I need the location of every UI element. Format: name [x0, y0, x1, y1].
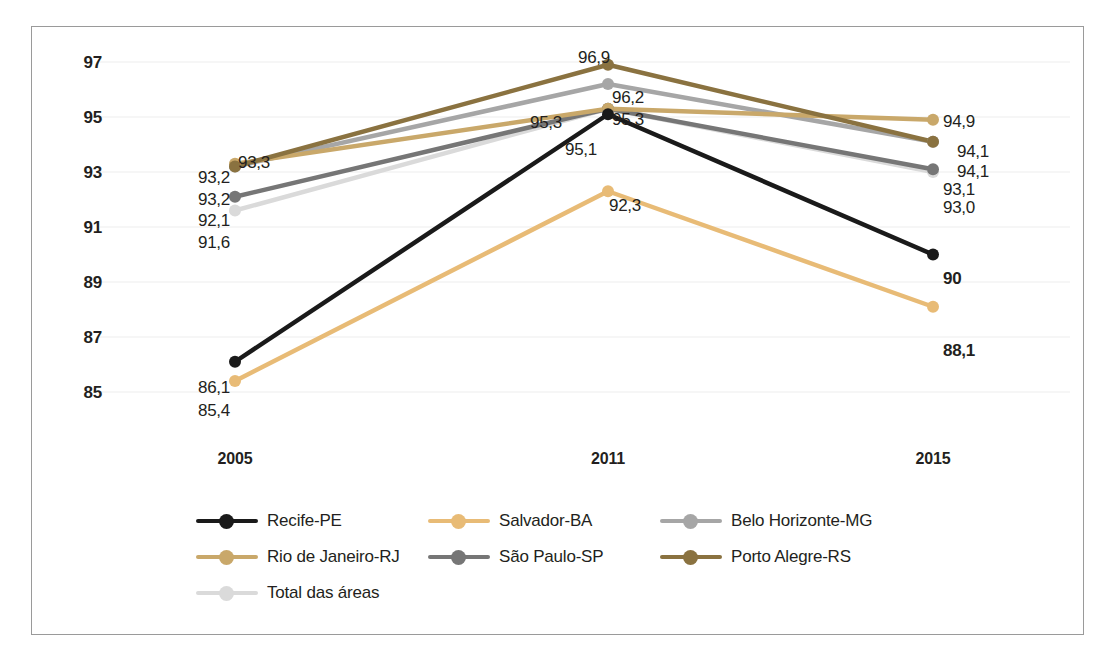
data-label-2015-bh: 94,1	[957, 142, 989, 162]
y-tick-89: 89	[56, 273, 102, 293]
legend-marker-icon-belo-horizonte-mg	[660, 513, 722, 529]
data-label-2005-total: 91,6	[198, 233, 230, 253]
y-tick-95: 95	[56, 108, 102, 128]
legend-item-rio-de-janeiro-rj[interactable]: Rio de Janeiro-RJ	[196, 539, 428, 575]
data-label-2015-porto: 94,1	[957, 162, 989, 182]
x-tick-2005: 2005	[175, 450, 295, 468]
data-label-2005-porto: 93,2	[198, 168, 230, 188]
data-label-2011-porto: 96,9	[578, 48, 610, 68]
legend-label-total-das-areas: Total das áreas	[267, 583, 379, 603]
data-label-2011-recife: 95,1	[565, 140, 597, 160]
data-label-2011-bh: 96,2	[612, 88, 644, 108]
chart-legend: Recife-PE Salvador-BA Belo Horizonte-MG	[196, 503, 956, 611]
data-label-2005-rio: 93,3	[238, 153, 270, 173]
legend-row-3: Total das áreas	[196, 575, 956, 611]
data-label-2011-salvador: 92,3	[609, 196, 641, 216]
data-label-2015-recife: 90	[943, 269, 961, 289]
data-label-2015-sp: 93,1	[943, 180, 975, 200]
legend-item-belo-horizonte-mg[interactable]: Belo Horizonte-MG	[660, 503, 892, 539]
data-label-2005-bh: 93,2	[198, 190, 230, 210]
legend-marker-icon-salvador-ba	[428, 513, 490, 529]
data-label-2015-salvador: 88,1	[943, 341, 975, 361]
legend-marker-icon-porto-alegre-rs	[660, 549, 722, 565]
x-tick-2011: 2011	[548, 450, 668, 468]
legend-row-2: Rio de Janeiro-RJ São Paulo-SP Porto Ale…	[196, 539, 956, 575]
legend-marker-icon-recife-pe	[196, 513, 258, 529]
legend-marker-icon-rio-de-janeiro-rj	[196, 549, 258, 565]
legend-item-porto-alegre-rs[interactable]: Porto Alegre-RS	[660, 539, 892, 575]
legend-marker-icon-total-das-areas	[196, 585, 258, 601]
data-label-2005-sp: 92,1	[198, 211, 230, 231]
legend-label-rio-de-janeiro-rj: Rio de Janeiro-RJ	[267, 547, 400, 567]
legend-item-sao-paulo-sp[interactable]: São Paulo-SP	[428, 539, 660, 575]
data-label-2015-total: 93,0	[943, 198, 975, 218]
y-tick-91: 91	[56, 218, 102, 238]
chart-container: 97 95 93 91 89 87 85 2005 2011 2015 93,3…	[0, 0, 1114, 669]
y-tick-93: 93	[56, 163, 102, 183]
legend-label-sao-paulo-sp: São Paulo-SP	[499, 547, 603, 567]
x-tick-2015: 2015	[873, 450, 993, 468]
legend-label-porto-alegre-rs: Porto Alegre-RS	[731, 547, 851, 567]
legend-row-1: Recife-PE Salvador-BA Belo Horizonte-MG	[196, 503, 956, 539]
legend-item-total-das-areas[interactable]: Total das áreas	[196, 575, 428, 611]
legend-label-salvador-ba: Salvador-BA	[499, 511, 592, 531]
legend-label-belo-horizonte-mg: Belo Horizonte-MG	[731, 511, 872, 531]
y-tick-87: 87	[56, 328, 102, 348]
legend-label-recife-pe: Recife-PE	[267, 511, 342, 531]
data-label-2011-rio: 95,3	[530, 113, 562, 133]
legend-item-salvador-ba[interactable]: Salvador-BA	[428, 503, 660, 539]
legend-item-recife-pe[interactable]: Recife-PE	[196, 503, 428, 539]
y-tick-97: 97	[56, 53, 102, 73]
data-label-2015-rio: 94,9	[943, 112, 975, 132]
data-label-2005-salvador: 85,4	[198, 401, 230, 421]
y-tick-85: 85	[56, 383, 102, 403]
data-label-2005-recife: 86,1	[198, 378, 230, 398]
legend-marker-icon-sao-paulo-sp	[428, 549, 490, 565]
data-label-2011-sp: 95,3	[612, 110, 644, 130]
